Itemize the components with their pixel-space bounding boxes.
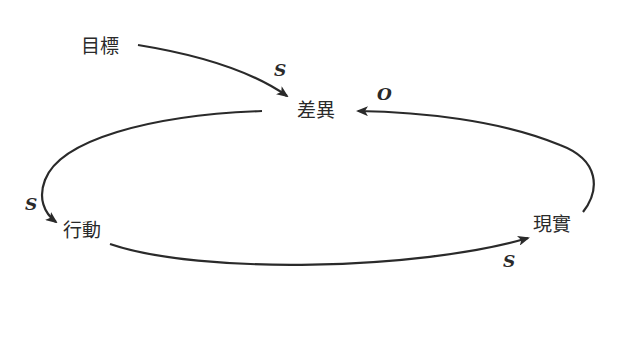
polarity-action-reality: S — [503, 253, 515, 270]
node-action: 行動 — [63, 221, 101, 240]
arrow-reality-to-gap — [358, 111, 594, 212]
node-goal: 目標 — [81, 37, 119, 56]
arrow-gap-to-action — [42, 111, 262, 222]
node-gap: 差異 — [297, 101, 335, 120]
arrow-action-to-reality — [110, 238, 528, 265]
polarity-goal-gap: S — [274, 62, 286, 79]
node-reality: 現實 — [533, 215, 571, 234]
polarity-gap-action: S — [25, 196, 37, 213]
polarity-reality-gap: O — [377, 86, 392, 103]
arrow-goal-to-gap — [138, 45, 287, 96]
